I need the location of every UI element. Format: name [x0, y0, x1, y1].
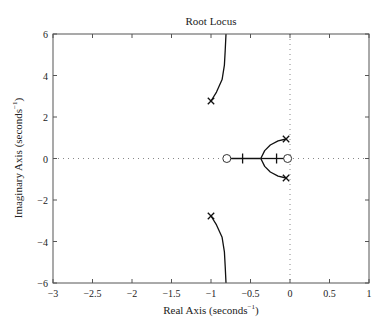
zero-marker-icon [223, 155, 231, 163]
y-tick-label: −6 [37, 278, 48, 289]
x-tick-label: −2.5 [83, 288, 101, 299]
locus-branch-lower-near [261, 159, 286, 179]
pole-marker-icon [208, 98, 214, 104]
x-axis-ticks: −3−2.5−2−1.5−1−0.500.51 [48, 34, 372, 299]
y-tick-label: −4 [37, 237, 48, 248]
y-tick-label: 2 [43, 112, 48, 123]
root-locus-plot: Root Locus −3−2.5−2−1.5−1−0.500.51 −6−4−… [0, 0, 390, 328]
x-axis-label: Real Axis (seconds−1) [163, 303, 259, 317]
x-tick-label: −3 [48, 288, 59, 299]
locus-branch-upper-far [211, 34, 226, 101]
x-tick-label: −1 [206, 288, 217, 299]
y-axis-label-close: ) [12, 97, 25, 101]
x-tick-label: −2 [127, 288, 138, 299]
locus-branch-lower-far [211, 216, 226, 283]
plot-frame [53, 34, 369, 283]
y-tick-label: −2 [37, 195, 48, 206]
y-axis-label-text: Imaginary Axis (seconds [12, 109, 25, 218]
y-tick-label: 6 [43, 29, 48, 40]
pole-marker-icon [208, 213, 214, 219]
x-axis-label-close: ) [255, 304, 259, 317]
chart-title: Root Locus [185, 15, 236, 27]
y-axis-label: Imaginary Axis (seconds−1) [11, 97, 25, 218]
y-tick-label: 0 [43, 154, 48, 165]
zero-marker-icon [284, 155, 292, 163]
x-axis-label-text: Real Axis (seconds [163, 304, 247, 317]
root-locus-figure: Root Locus −3−2.5−2−1.5−1−0.500.51 −6−4−… [0, 0, 390, 328]
zero-reference-lines [53, 34, 369, 283]
x-tick-label: 0 [288, 288, 293, 299]
x-tick-label: 1 [367, 288, 372, 299]
x-tick-label: −1.5 [162, 288, 180, 299]
x-tick-label: −0.5 [241, 288, 259, 299]
x-tick-label: 0.5 [323, 288, 336, 299]
y-tick-label: 4 [43, 71, 48, 82]
locus-branch-upper-near [261, 139, 286, 159]
